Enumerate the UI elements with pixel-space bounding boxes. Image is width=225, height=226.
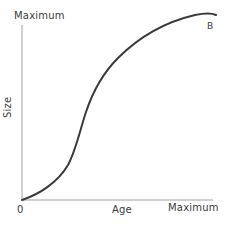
y-axis-title: Size (2, 97, 13, 118)
x-axis-max-label: Maximum (168, 202, 219, 213)
growth-curve (22, 14, 216, 201)
origin-label: 0 (17, 204, 24, 215)
curve-label-b: B (207, 21, 213, 31)
growth-chart: Maximum Size 0 Age Maximum B (0, 0, 225, 226)
x-axis-title: Age (112, 204, 132, 215)
y-axis-max-label: Maximum (14, 10, 65, 21)
chart-plot (0, 0, 225, 226)
